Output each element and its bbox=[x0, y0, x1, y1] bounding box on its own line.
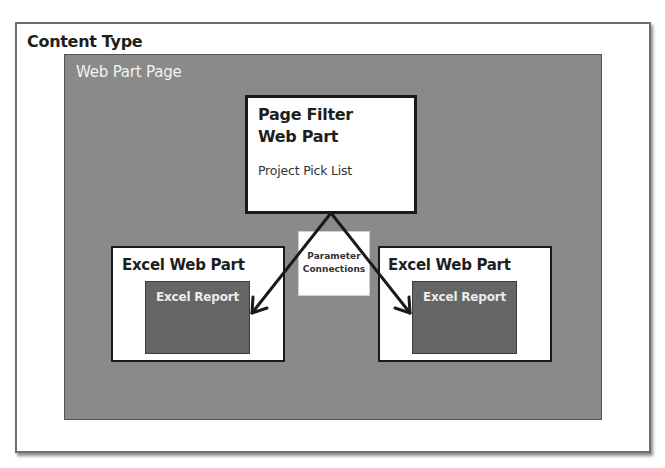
arrow-left-icon bbox=[252, 213, 331, 313]
connection-arrows bbox=[0, 0, 665, 468]
arrow-right-icon bbox=[331, 213, 410, 313]
